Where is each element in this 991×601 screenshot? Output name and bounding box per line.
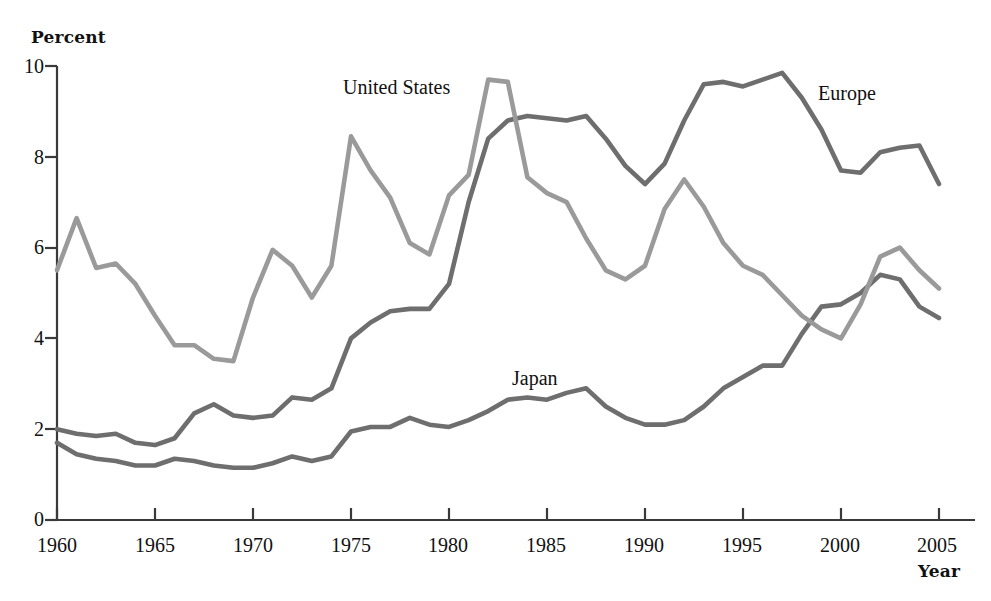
series-lines bbox=[57, 73, 939, 468]
unemployment-rate-line-chart: Percent Year 10 8 6 4 2 0 1960 1965 1970… bbox=[0, 0, 991, 601]
line-series-europe bbox=[57, 73, 939, 445]
plot-area bbox=[0, 0, 991, 601]
y-axis-ticks bbox=[45, 66, 57, 520]
x-axis-ticks bbox=[57, 508, 939, 520]
line-series-united-states bbox=[57, 80, 939, 361]
line-series-japan bbox=[57, 275, 939, 468]
axis-lines bbox=[57, 66, 975, 520]
